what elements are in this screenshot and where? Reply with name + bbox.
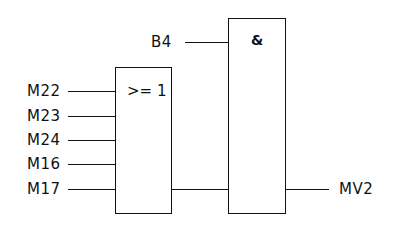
wire-m22: [68, 91, 115, 92]
or-gate-symbol: >= 1: [127, 82, 166, 100]
input-label-m16: M16: [27, 156, 61, 172]
wire-or-to-and: [172, 189, 228, 190]
wire-b4: [185, 42, 228, 43]
wire-m24: [68, 140, 115, 141]
wire-m16: [68, 164, 115, 165]
wire-m17: [68, 189, 115, 190]
input-label-m22: M22: [27, 83, 61, 99]
input-label-m23: M23: [27, 108, 61, 124]
output-label-mv2: MV2: [339, 181, 373, 197]
and-gate-symbol: &: [251, 32, 263, 48]
wire-m23: [68, 116, 115, 117]
input-label-m24: M24: [27, 132, 61, 148]
wire-output: [286, 189, 329, 190]
input-label-m17: M17: [27, 181, 61, 197]
input-label-b4: B4: [151, 34, 172, 50]
